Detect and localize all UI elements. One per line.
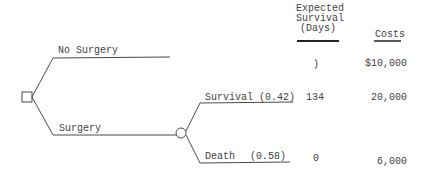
costs-column-header: Costs — [375, 30, 405, 40]
header-line-3: (Days) — [296, 24, 340, 34]
survival-probability: (0.42) — [259, 92, 295, 103]
death-probability: (0.58) — [250, 152, 286, 162]
death-outcome-label: Death — [205, 152, 235, 162]
decision-tree-lines — [0, 0, 427, 172]
decision-node-square — [22, 92, 32, 102]
death-outcome-cost: 6,000 — [362, 157, 407, 167]
survival-outcome-days: 134 — [306, 93, 324, 103]
surgery-label: Surgery — [59, 124, 101, 134]
chance-node-circle — [176, 128, 186, 138]
survival-column-header: Expected Survival (Days) — [296, 4, 340, 34]
death-outcome-days: 0 — [313, 154, 319, 164]
no-surgery-label: No Surgery — [58, 46, 118, 56]
no-surgery-cost: $10,000 — [362, 59, 407, 69]
survival-outcome-label: Survival (0.42) — [205, 93, 295, 103]
no-surgery-survival: ) — [313, 60, 319, 70]
survival-outcome-cost: 20,000 — [362, 93, 407, 103]
